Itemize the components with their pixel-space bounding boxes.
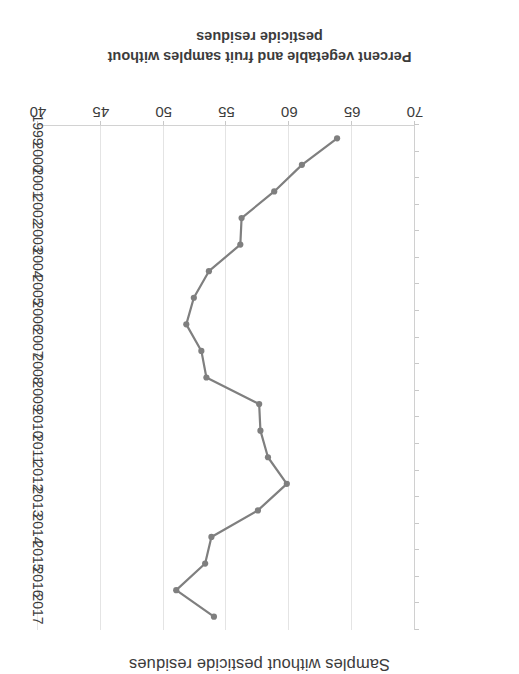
data-point-marker (299, 162, 305, 168)
category-axis-tick (415, 337, 419, 338)
data-point-marker (256, 401, 262, 407)
value-axis-tick-label: 45 (93, 104, 110, 121)
data-point-marker (173, 587, 179, 593)
data-point-marker (271, 188, 277, 194)
category-axis-tick (415, 390, 419, 391)
chart-figure: Samples without pesticide residues 70656… (0, 0, 519, 674)
value-axis-tick-labels: 70656055504540 (38, 75, 415, 121)
series-polyline (176, 138, 337, 616)
plot-area (38, 125, 415, 630)
data-point-marker (211, 614, 217, 620)
data-point-marker (334, 135, 340, 141)
category-axis-tick (415, 204, 419, 205)
data-point-marker (238, 215, 244, 221)
value-axis-tick-label: 50 (155, 104, 172, 121)
category-axis-tick-labels: 1999200020012002200320042005200620072008… (0, 125, 38, 630)
value-axis-title: Percent vegetable and fruit samples with… (0, 27, 519, 66)
data-point-marker (265, 454, 271, 460)
data-point-marker (257, 428, 263, 434)
chart-title: Samples without pesticide residues (0, 655, 519, 674)
data-point-marker (237, 242, 243, 248)
category-axis-tick (415, 257, 419, 258)
category-axis-tick (415, 151, 419, 152)
category-axis-tick (415, 177, 419, 178)
value-axis-tick-label: 70 (407, 104, 424, 121)
data-point-marker (198, 348, 204, 354)
data-point-marker (206, 268, 212, 274)
data-point-marker (208, 534, 214, 540)
category-axis-tick (415, 124, 419, 125)
data-point-marker (183, 321, 189, 327)
category-axis-tick (415, 549, 419, 550)
data-point-marker (284, 481, 290, 487)
category-axis-tick (415, 576, 419, 577)
category-axis-tick (415, 416, 419, 417)
category-axis-tick (415, 523, 419, 524)
category-axis-tick (415, 629, 419, 630)
data-point-marker (255, 507, 261, 513)
category-axis-tick-label: 2017 (30, 593, 46, 624)
data-point-marker (202, 560, 208, 566)
value-axis-tick-label: 65 (344, 104, 361, 121)
category-axis-tick (415, 310, 419, 311)
value-axis-tick-label: 60 (281, 104, 298, 121)
category-axis-tick (415, 602, 419, 603)
category-axis-tick (415, 283, 419, 284)
category-axis-tick (415, 230, 419, 231)
value-axis-tick-label: 55 (218, 104, 235, 121)
data-series-line (38, 125, 415, 630)
data-point-marker (191, 295, 197, 301)
category-axis-tick (415, 470, 419, 471)
value-axis-title-line-1: Percent vegetable and fruit samples with… (0, 46, 519, 66)
data-point-marker (203, 374, 209, 380)
category-axis-tick (415, 496, 419, 497)
category-axis-tick (415, 443, 419, 444)
category-axis-tick (415, 363, 419, 364)
value-axis-title-line-2: pesticide residues (0, 27, 519, 47)
